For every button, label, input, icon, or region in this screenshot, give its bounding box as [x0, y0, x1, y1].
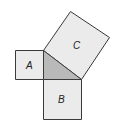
- label-a: A: [25, 60, 33, 71]
- label-c: C: [73, 40, 81, 51]
- label-b: B: [58, 94, 65, 105]
- pythagorean-diagram: A B C: [0, 0, 114, 128]
